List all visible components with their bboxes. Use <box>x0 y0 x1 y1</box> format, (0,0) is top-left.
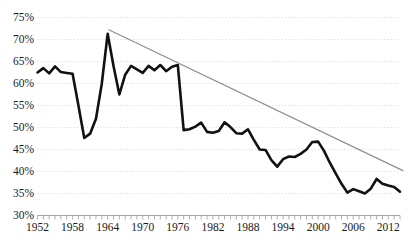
x-axis-tick-label: 2012 <box>377 222 400 234</box>
x-axis-tick-label: 1988 <box>236 222 259 234</box>
x-axis-tick-label: 1952 <box>26 222 49 234</box>
x-axis-tick-labels: 1952195819641970197619821988199420002006… <box>0 0 407 248</box>
x-axis-tick-label: 1970 <box>131 222 154 234</box>
x-axis-tick-label: 1982 <box>201 222 224 234</box>
chart-container: 75%70%65%60%55%50%45%40%35%30% 195219581… <box>0 0 407 248</box>
x-axis-tick-label: 1964 <box>96 222 119 234</box>
x-axis-tick-label: 1958 <box>61 222 84 234</box>
x-axis-tick-label: 2000 <box>307 222 330 234</box>
x-axis-tick-label: 1994 <box>272 222 295 234</box>
x-axis-tick-label: 2006 <box>342 222 365 234</box>
x-axis-tick-label: 1976 <box>166 222 189 234</box>
